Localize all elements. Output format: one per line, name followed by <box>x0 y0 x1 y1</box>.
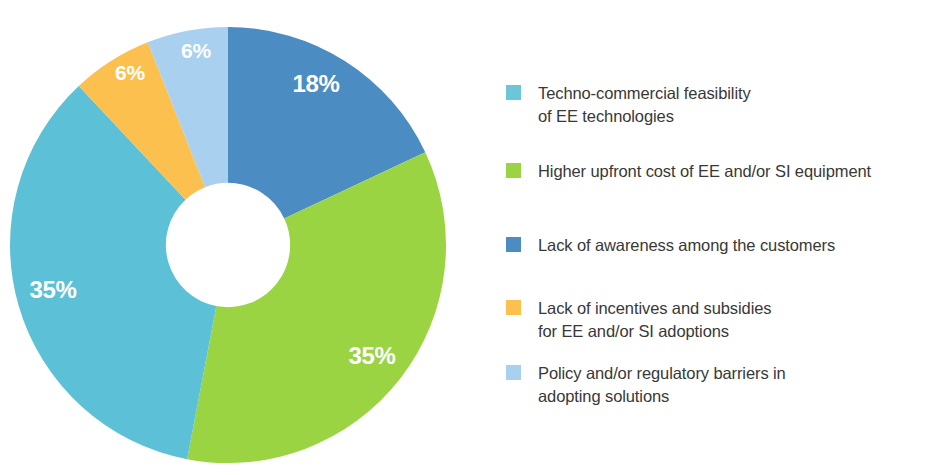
legend-item[interactable]: Higher upfront cost of EE and/or SI equi… <box>506 160 936 183</box>
legend-swatch-icon <box>506 163 521 178</box>
legend-item-label: Lack of awareness among the customers <box>538 234 835 257</box>
legend-item-label: Policy and/or regulatory barriers in ado… <box>538 362 786 408</box>
legend-item[interactable]: Lack of incentives and subsidies for EE … <box>506 297 936 343</box>
slice-value-label: 6% <box>181 39 211 62</box>
legend-item-label: Techno-commercial feasibility of EE tech… <box>538 82 751 128</box>
legend-item[interactable]: Lack of awareness among the customers <box>506 234 936 257</box>
legend-swatch-icon <box>506 237 521 252</box>
chart-page: 18%35%35%6%6% Techno-commercial feasibil… <box>0 0 942 475</box>
legend-item[interactable]: Policy and/or regulatory barriers in ado… <box>506 362 936 408</box>
slice-value-label: 35% <box>348 342 395 369</box>
donut-slices <box>10 27 446 463</box>
legend-item-label: Higher upfront cost of EE and/or SI equi… <box>538 160 871 183</box>
legend-swatch-icon <box>506 365 521 380</box>
slice-value-label: 35% <box>29 276 76 303</box>
slice-value-label: 18% <box>292 70 339 97</box>
legend-swatch-icon <box>506 85 521 100</box>
donut-chart-svg: 18%35%35%6%6% <box>0 0 470 475</box>
legend-swatch-icon <box>506 300 521 315</box>
legend-item[interactable]: Techno-commercial feasibility of EE tech… <box>506 82 936 128</box>
donut-chart: 18%35%35%6%6% <box>0 0 470 475</box>
legend-item-label: Lack of incentives and subsidies for EE … <box>538 297 771 343</box>
slice-value-label: 6% <box>115 61 145 84</box>
